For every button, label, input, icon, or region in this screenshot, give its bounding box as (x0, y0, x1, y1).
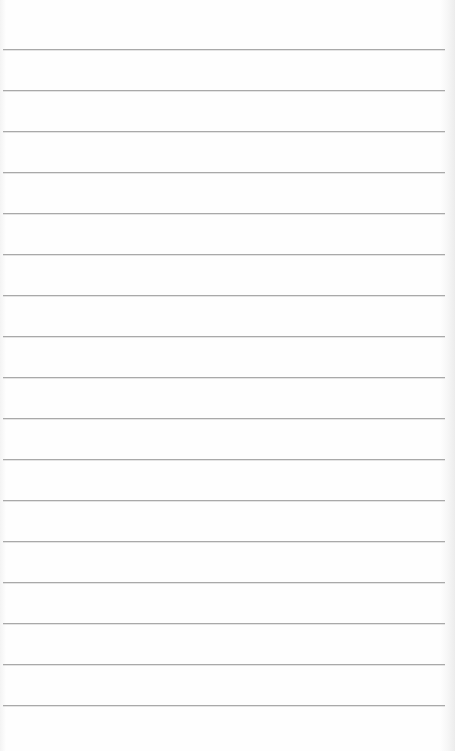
ruled-line (3, 418, 445, 419)
ruled-line (3, 336, 445, 337)
ruled-line (3, 90, 445, 91)
ruled-line (3, 131, 445, 132)
ruled-line (3, 582, 445, 583)
ruled-line (3, 377, 445, 378)
ruled-line (3, 295, 445, 296)
ruled-line (3, 459, 445, 460)
ruled-line (3, 623, 445, 624)
lined-paper-sheet (0, 0, 455, 751)
ruled-line (3, 49, 445, 50)
ruled-line (3, 541, 445, 542)
ruled-line (3, 213, 445, 214)
ruled-line (3, 705, 445, 706)
ruled-line (3, 254, 445, 255)
ruled-line (3, 172, 445, 173)
ruled-line (3, 500, 445, 501)
ruled-line (3, 664, 445, 665)
